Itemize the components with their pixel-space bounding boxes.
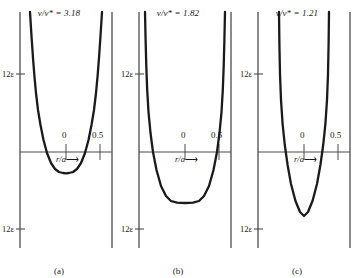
panel-c-curve <box>279 12 329 216</box>
panel-a-ytick-label-upper: 12ε <box>0 69 14 79</box>
panel-c-xtick-label-zero: 0 <box>300 130 305 140</box>
panel-a: v/v* = 3.18 12ε 12ε 0 0.5 r/a⟶ (a) <box>0 0 118 278</box>
panel-c-xaxis-label: r/a⟶ <box>294 154 317 164</box>
panel-b-ytick-label-upper: 12ε <box>119 69 133 79</box>
panel-c-caption: (c) <box>238 266 356 276</box>
panel-c-xtick-label-half: 0.5 <box>330 130 341 140</box>
figure-potential-energy-curves: v/v* = 3.18 12ε 12ε 0 0.5 r/a⟶ (a) v/v* … <box>0 0 358 278</box>
panel-a-xtick-label-half: 0.5 <box>92 130 103 140</box>
panel-a-ytick-label-lower: 12ε <box>0 224 14 234</box>
panel-a-xaxis-arrow-icon: ⟶ <box>66 154 79 164</box>
panel-b-ytick-label-lower: 12ε <box>119 224 133 234</box>
panel-c-title-text: v/v* = 1.21 <box>276 8 318 18</box>
panel-b-xaxis-label: r/a⟶ <box>175 154 198 164</box>
panel-a-title-text: v/v* = 3.18 <box>38 8 80 18</box>
panel-a-caption: (a) <box>0 266 118 276</box>
panel-a-xaxis-label: r/a⟶ <box>56 154 79 164</box>
panel-b: v/v* = 1.82 12ε 12ε 0 0.5 r/a⟶ (b) <box>119 0 237 278</box>
panel-a-title: v/v* = 3.18 <box>0 8 118 18</box>
panel-b-xaxis-label-text: r/a <box>175 154 185 164</box>
panel-c-ytick-label-upper: 12ε <box>238 69 252 79</box>
panel-c-xaxis-arrow-icon: ⟶ <box>304 154 317 164</box>
panel-b-xaxis-arrow-icon: ⟶ <box>185 154 198 164</box>
panel-b-caption: (b) <box>119 266 237 276</box>
panel-b-xtick-label-zero: 0 <box>181 130 186 140</box>
panel-b-curve <box>145 12 225 203</box>
panel-b-title: v/v* = 1.82 <box>119 8 237 18</box>
panel-a-xaxis-label-text: r/a <box>56 154 66 164</box>
panel-b-title-text: v/v* = 1.82 <box>157 8 199 18</box>
panel-b-xtick-label-half: 0.5 <box>211 130 222 140</box>
panel-a-xtick-label-zero: 0 <box>62 130 67 140</box>
panel-c: v/v* = 1.21 12ε 12ε 0 0.5 r/a⟶ (c) <box>238 0 356 278</box>
panel-c-ytick-label-lower: 12ε <box>238 224 252 234</box>
panel-c-title: v/v* = 1.21 <box>238 8 356 18</box>
panel-c-xaxis-label-text: r/a <box>294 154 304 164</box>
